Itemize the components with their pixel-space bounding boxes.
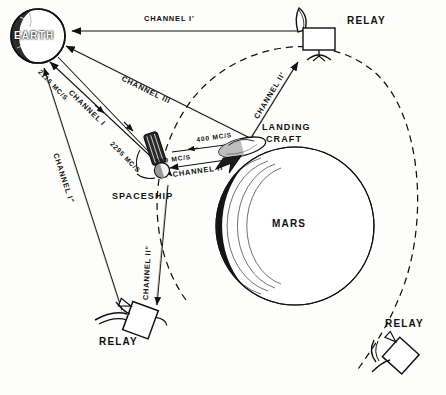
- channel-2-prime-line: [246, 62, 298, 145]
- relay-right-icon: [371, 330, 419, 374]
- channel-1-line-uplink: [50, 62, 163, 168]
- diagram-canvas: EARTH MARS SPACESHIP LANDING CRAFT RELAY…: [0, 0, 446, 395]
- earth-label: EARTH: [14, 30, 54, 41]
- relay-bottom-label: RELAY: [99, 336, 138, 347]
- spaceship-label: SPACESHIP: [112, 191, 173, 201]
- relay-top-label: RELAY: [347, 15, 386, 26]
- mars-label: MARS: [272, 218, 306, 229]
- landing-craft-label-line1: LANDING: [262, 122, 311, 132]
- relay-top-icon: [296, 8, 335, 61]
- relay-right-label: RELAY: [385, 318, 424, 329]
- channel-1-prime-label: CHANNEL I': [144, 14, 194, 23]
- landing-craft-label-line2: CRAFT: [266, 134, 302, 144]
